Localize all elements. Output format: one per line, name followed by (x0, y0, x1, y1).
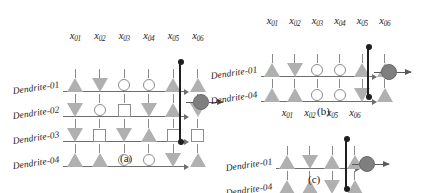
synapse-x05-d2 (323, 171, 341, 193)
panel-caption-c: (c) (308, 173, 320, 185)
panel-c-input-labels: x01x02x05x06 (276, 104, 366, 118)
soma-input-stem (352, 164, 359, 165)
synapse-inhibitory-down-triangle-icon (324, 180, 340, 193)
synapse-excitatory-up-triangle-icon-shape (279, 155, 295, 169)
synapse-inhibitory-down-triangle-icon-shape (302, 155, 318, 169)
dendrite-label-2: Dendrite-04 (225, 181, 276, 193)
synapse-stem (332, 146, 333, 155)
synapse-stem (354, 146, 355, 155)
synapse-inhibitory-down-triangle-icon (302, 155, 318, 169)
synapse-excitatory-up-triangle-icon (324, 155, 340, 169)
synapse-stem (287, 171, 288, 180)
synapse-excitatory-up-triangle-icon-shape (279, 180, 295, 193)
synapse-stem (309, 146, 310, 155)
panel-c: x01x02x05x06Dendrite-01Dendrite-04(c) (0, 0, 423, 193)
synapse-x01-d1 (278, 146, 296, 169)
panel-c-dendrite-row: Dendrite-01 (276, 143, 356, 169)
input-label-x02: x02 (299, 108, 322, 119)
dendrite-label-1: Dendrite-01 (225, 156, 276, 173)
synapse-stem (354, 171, 355, 180)
soma-icon (359, 156, 375, 172)
synapse-excitatory-up-triangle-icon-shape (324, 155, 340, 169)
synapse-inhibitory-down-triangle-icon-shape (324, 180, 340, 193)
synapse-stem (287, 146, 288, 155)
input-label-x05: x05 (321, 108, 344, 119)
bus-junction-dot-bottom (344, 186, 350, 192)
synapse-stem (332, 171, 333, 180)
axon-output-arrow-icon (375, 164, 389, 165)
panel-c-soma-group (352, 156, 389, 172)
bus-junction-dot-top (344, 136, 350, 142)
synapse-x02-d1 (301, 146, 319, 169)
panel-c-output-bus (345, 139, 347, 189)
input-label-x06: x06 (344, 108, 367, 119)
synapse-x01-d2 (278, 171, 296, 193)
input-label-x01: x01 (276, 108, 299, 119)
figure-root: x01x02x03x04x05x06Dendrite-01Dendrite-02… (0, 0, 423, 193)
synapse-x05-d1 (323, 146, 341, 169)
synapse-excitatory-up-triangle-icon (279, 155, 295, 169)
synapse-excitatory-up-triangle-icon (279, 180, 295, 193)
